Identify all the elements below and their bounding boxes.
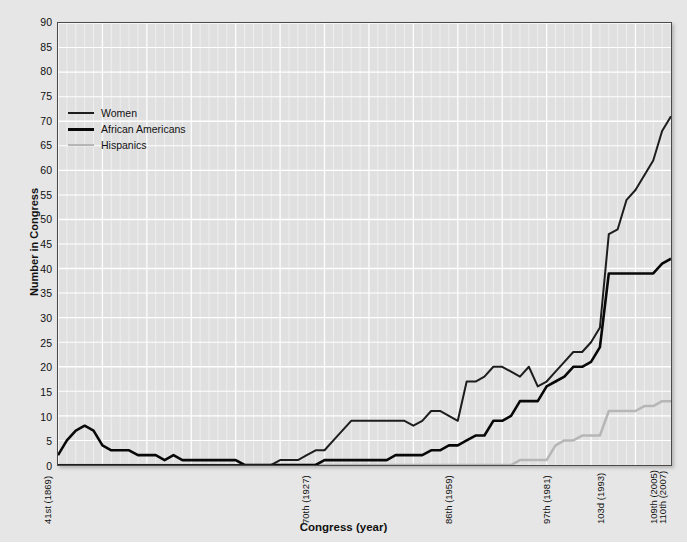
y-axis-title: Number in Congress xyxy=(28,152,40,332)
series-line-african-americans xyxy=(58,259,671,465)
x-tick-label: 103d (1993) xyxy=(595,473,606,524)
legend-label-african-americans: African Americans xyxy=(101,123,186,135)
plot-area xyxy=(57,22,672,466)
y-tick-label: 85 xyxy=(6,42,52,53)
y-tick-label: 25 xyxy=(6,338,52,349)
x-tick-label: 86th (1959) xyxy=(443,475,454,524)
x-tick-label: 41st (1869) xyxy=(42,476,53,524)
series-line-women xyxy=(58,116,671,465)
chart-figure: 051015202530354045505560657075808590 Num… xyxy=(0,0,687,559)
y-tick-label: 80 xyxy=(6,66,52,77)
y-axis-ticks: 051015202530354045505560657075808590 xyxy=(0,0,52,490)
x-tick-label: 97th (1981) xyxy=(541,475,552,524)
legend-swatch-african-americans-icon xyxy=(68,128,94,131)
x-axis-title: Congress (year) xyxy=(0,521,687,533)
legend-label-women: Women xyxy=(101,107,137,119)
y-tick-label: 5 xyxy=(6,436,52,447)
figure-bottom-margin xyxy=(0,542,687,559)
legend-label-hispanics: Hispanics xyxy=(101,139,147,151)
figure-background: 051015202530354045505560657075808590 Num… xyxy=(0,0,687,542)
legend-swatch-hispanics-icon xyxy=(68,144,94,146)
y-tick-label: 90 xyxy=(6,17,52,28)
series-lines xyxy=(58,116,671,465)
x-axis-ticks: 41st (1869)70th (1927)86th (1959)97th (1… xyxy=(0,468,687,524)
chart-legend: Women African Americans Hispanics xyxy=(68,105,268,153)
y-tick-label: 75 xyxy=(6,91,52,102)
y-tick-label: 65 xyxy=(6,140,52,151)
legend-item-african-americans: African Americans xyxy=(68,121,268,137)
x-tick-label: 70th (1927) xyxy=(300,475,311,524)
gridlines xyxy=(58,23,671,465)
y-tick-label: 10 xyxy=(6,412,52,423)
y-tick-label: 20 xyxy=(6,362,52,373)
y-tick-label: 70 xyxy=(6,116,52,127)
legend-swatch-women-icon xyxy=(68,112,94,114)
legend-item-women: Women xyxy=(68,105,268,121)
plot-svg xyxy=(58,23,671,465)
legend-item-hispanics: Hispanics xyxy=(68,137,268,153)
x-tick-label: 110th (2007) xyxy=(657,471,668,524)
y-tick-label: 15 xyxy=(6,387,52,398)
